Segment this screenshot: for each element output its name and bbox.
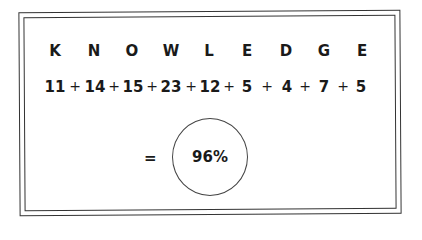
letter-o: O [117, 42, 147, 60]
result-circle: 96% [172, 118, 248, 196]
letter-e-final: E [347, 42, 377, 60]
value-e-final: 5 [346, 78, 376, 96]
letter-n: N [79, 42, 109, 60]
letter-d: D [271, 42, 301, 60]
equals-sign: = [144, 149, 157, 167]
letter-l: L [194, 42, 224, 60]
letter-w: W [156, 42, 186, 60]
letter-e: E [232, 42, 262, 60]
letter-g: G [309, 42, 339, 60]
letter-k: K [40, 42, 70, 60]
value-e: 5 [232, 78, 262, 96]
value-w: 23 [156, 78, 186, 96]
result-percentage: 96% [192, 148, 228, 166]
value-k: 11 [40, 78, 70, 96]
